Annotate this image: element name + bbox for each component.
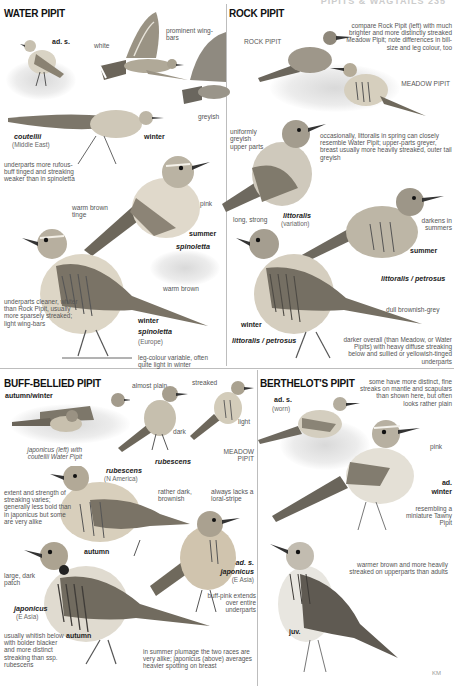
label-ad: ad. [418,479,452,486]
note-extent-strength: extent and strength of streaking varies;… [4,489,74,525]
label-light: light [238,418,250,425]
label-littoralis-petrosus-winter: littoralis / petrosus [232,336,296,345]
label-winter-berthelots: winter [410,488,452,495]
label-winter-coutellii: winter [144,133,165,140]
divider-horizontal [0,368,454,369]
label-greyish: greyish [198,113,219,120]
bird-illustration-rock-pipit-flight [180,30,230,110]
label-dark: dark [173,428,186,435]
illustrator-credit: KM [432,670,441,676]
label-meadow-pipit-small: MEADOW PIPIT [214,448,254,463]
label-europe: (Europe) [138,338,163,345]
bird-illustration-japonicus-and-coutellii [10,388,130,438]
label-rather-dark: rather dark, brownish [158,488,200,503]
label-e-asia-autumn: (E Asia) [16,613,38,620]
label-middle-east: (Middle East) [12,141,50,148]
label-juv: juv. [289,628,301,635]
label-coutellii: coutellii [14,132,41,141]
label-meadow-pipit: MEADOW PIPIT [400,80,450,87]
label-rubescens-small: rubescens [155,457,191,466]
label-long-strong: long, strong [233,216,267,223]
note-summer-plumage: in summer plumage the two races are very… [143,648,255,670]
label-always-lacks: always lacks a loral-stripe [211,488,257,503]
page-header: PIPITS & WAGTAILS 235 [321,0,446,6]
label-pink-berthelots: pink [430,443,442,450]
bird-illustration-spinoletta-winter [22,226,212,366]
bird-illustration-berthelots-juv [270,534,400,684]
label-ad-s: ad. s. [52,38,70,45]
label-warm-brown-tinge: warm brown tinge [72,204,116,219]
label-dull-brownish-grey: dull brownish-grey [386,306,440,313]
section-title-berthelots-pipit: BERTHELOT'S PIPIT [260,378,355,389]
note-usually-whitish: usually whitish below with bolder blacke… [4,632,66,668]
note-japonicus-left: japonicus (left) with coutellii Water Pi… [10,446,82,460]
note-leg-colour: leg-colour variable, often quite light i… [138,354,222,368]
note-resembling-tawny: resembling a miniature Tawny Pipit [400,505,452,527]
label-e-asia-ad-s: (E Asia) [214,576,254,583]
bird-illustration-water-pipit-flight [96,8,192,86]
label-large-dark-patch: large, dark patch [4,572,44,587]
label-spinoletta-winter: spinoletta [138,327,172,336]
section-title-water-pipit: WATER PIPIT [4,8,65,19]
note-underparts-cleaner: underparts cleaner, whiter than Rock Pip… [4,298,84,327]
note-some-have: some have more distinct, fine streaks on… [360,378,452,407]
label-autumn-japonicus: autumn [66,632,91,639]
label-winter-spinoletta: winter [138,317,159,324]
bird-illustration-meadow-pipit-compare [330,60,430,120]
note-occasionally-littoralis: occasionally, littoralis in spring can c… [320,132,452,161]
bird-illustration-meadow-pipit-small [190,380,254,440]
label-ad-s-bb: ad. s. [214,558,254,567]
section-title-rock-pipit: ROCK PIPIT [229,8,284,19]
note-compare-rock-meadow: compare Rock Pipit (left) with much brig… [340,22,452,51]
bird-illustration-rubescens-small [118,384,188,454]
note-underparts-rufous: underparts more rufous-buff tinged and s… [4,161,76,183]
label-japonicus-autumn: japonicus [14,604,48,613]
label-pink: pink [200,200,212,207]
label-winter-rock: winter [241,321,262,328]
note-darker-overall: darker overall (than Meadow, or Water Pi… [338,336,452,365]
